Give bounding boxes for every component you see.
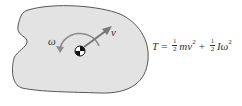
velocity-label: v [111,26,116,38]
rigid-body-diagram [0,0,242,106]
eq-equals: = [161,40,167,52]
eq-term2-symbol: Iω [217,40,228,52]
omega-label: ω [48,35,56,47]
fraction-1: 1 2 [172,38,177,53]
fraction-2: 1 2 [210,38,215,53]
eq-lhs: T [152,40,158,52]
center-of-mass-icon [75,46,85,56]
kinetic-energy-equation: T = 1 2 mv2 + 1 2 Iω2 [152,38,232,53]
eq-term1-symbol: mv [179,40,192,52]
eq-plus: + [199,40,205,52]
